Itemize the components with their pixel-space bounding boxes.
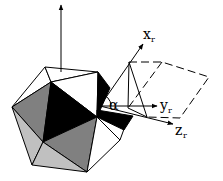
icosahedron — [12, 67, 133, 172]
x-axis-subscript: r — [151, 35, 155, 44]
icosahedron-diagram: α x r y r z r — [0, 0, 223, 181]
y-axis-label: y — [159, 97, 168, 113]
y-axis-subscript: r — [168, 106, 172, 115]
x-axis-label: x — [143, 26, 151, 42]
z-axis-label: z — [175, 122, 182, 138]
z-axis-subscript: r — [183, 131, 187, 140]
alpha-label: α — [109, 97, 119, 113]
